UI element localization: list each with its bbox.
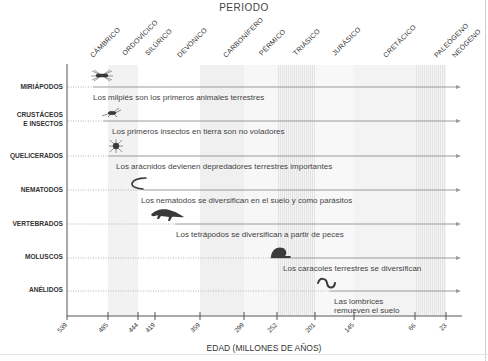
arrow-icon bbox=[456, 85, 461, 89]
arrow-icon bbox=[456, 154, 461, 158]
tick-label: 359 bbox=[189, 321, 202, 334]
arrow-icon bbox=[456, 119, 461, 123]
annotation-insectos: Los primeros insectos en tierra son no v… bbox=[112, 127, 285, 136]
tick-label: 201 bbox=[304, 321, 317, 334]
tick-label: 539 bbox=[56, 321, 69, 334]
annotation-moluscos: Los caracoles terrestres se diversifican bbox=[283, 264, 421, 273]
x-tick-labels: 539 485 444 419 359 299 252 201 145 66 2… bbox=[56, 321, 448, 334]
row-label-vertebrados: VERTEBRADOS bbox=[12, 220, 63, 227]
spider-icon bbox=[109, 139, 123, 153]
tick-label: 299 bbox=[233, 321, 246, 334]
period-label-cambrico: CÁMBRICO bbox=[88, 25, 122, 59]
row-label-miriapodos: MIRIÁPODOS bbox=[21, 82, 64, 90]
annotation-quelicerados: Los arácnidos devienen depredadores terr… bbox=[116, 162, 332, 171]
period-label-cretacico: CRETÁCICO bbox=[381, 22, 417, 58]
annotation-vertebrados: Los tetrápodos se diversifican a partir … bbox=[176, 230, 344, 239]
row-label-moluscos: MOLUSCOS bbox=[25, 253, 64, 260]
annotation-anelidos-2: remueven el suelo bbox=[334, 306, 400, 315]
tick-label: 145 bbox=[343, 321, 356, 334]
period-label-triasico: TRIÁSICO bbox=[291, 26, 321, 56]
arrow-icon bbox=[456, 289, 461, 293]
frame-border bbox=[485, 0, 486, 361]
tick-label: 66 bbox=[407, 321, 417, 331]
period-labels: CÁMBRICO ORDOVÍCICO SILÚRICO DEVÓNICO CA… bbox=[88, 15, 482, 59]
annotation-nematodos: Los nematodos se diversifican en el suel… bbox=[141, 196, 352, 205]
frame-bottom-border bbox=[0, 354, 488, 355]
period-label-permico: PÉRMICO bbox=[257, 27, 287, 57]
tick-label: 444 bbox=[127, 321, 140, 334]
annotation-anelidos-1: Las lombrices bbox=[334, 297, 383, 306]
tetrapod-icon bbox=[151, 209, 184, 221]
arrowheads bbox=[456, 85, 461, 293]
arrow-icon bbox=[456, 256, 461, 260]
x-axis-title: EDAD (MILLONES DE AÑOS) bbox=[207, 343, 322, 353]
period-label-jurasico: JURÁSICO bbox=[330, 25, 362, 57]
row-label-anelidos: ANÉLIDOS bbox=[29, 285, 64, 293]
annotation-miriapodos: Los milpiés son los primeros animales te… bbox=[93, 93, 264, 102]
period-label-devonico: DEVÓNICO bbox=[175, 25, 208, 58]
tick-label: 252 bbox=[266, 321, 279, 334]
row-label-insectos: E INSECTOS bbox=[23, 120, 63, 127]
tick-label: 485 bbox=[97, 321, 110, 334]
timeline-chart: CÁMBRICO ORDOVÍCICO SILÚRICO DEVÓNICO CA… bbox=[0, 0, 488, 361]
row-labels: MIRIÁPODOS CRUSTÁCEOS E INSECTOS QUELICE… bbox=[10, 82, 64, 293]
row-label-nematodos: NEMATODOS bbox=[21, 186, 64, 193]
row-label-crustaceos: CRUSTÁCEOS bbox=[17, 110, 64, 118]
tick-label: 23 bbox=[438, 321, 448, 331]
tick-label: 419 bbox=[144, 321, 157, 334]
row-label-quelicerados: QUELICERADOS bbox=[10, 152, 64, 160]
arrow-icon bbox=[456, 222, 461, 226]
arrow-icon bbox=[456, 188, 461, 192]
